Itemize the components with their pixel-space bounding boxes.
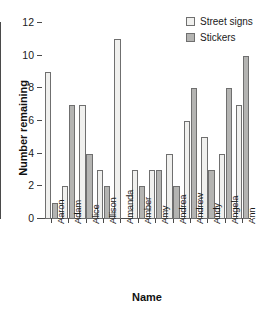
legend-swatch-icon xyxy=(186,33,195,42)
x-axis-tick xyxy=(173,219,174,223)
y-axis-tick-label: 2 xyxy=(8,180,34,191)
x-axis-tick xyxy=(68,219,69,223)
x-axis-tick-label: Aaron xyxy=(55,200,66,224)
x-axis-tick xyxy=(225,219,226,223)
x-axis-tick xyxy=(242,219,243,223)
x-axis-tick-label: Amber xyxy=(142,197,153,224)
x-axis-tick xyxy=(103,219,104,223)
x-axis-tick-label: Andy xyxy=(211,203,222,224)
legend-item: Stickers xyxy=(186,30,253,44)
x-axis-tick xyxy=(155,219,156,223)
chart-legend: Street signsStickers xyxy=(186,14,253,46)
x-axis-title: Name xyxy=(42,291,252,303)
x-axis-tick xyxy=(51,219,52,223)
y-axis-tick-label: 6 xyxy=(8,115,34,126)
y-axis-tick-label: 8 xyxy=(8,82,34,93)
x-axis-tick-label: Andrea xyxy=(177,195,188,224)
x-axis-tick xyxy=(190,219,191,223)
bars-layer xyxy=(42,22,251,219)
x-axis-tick-label: Amanda xyxy=(124,190,135,224)
x-axis-tick xyxy=(207,219,208,223)
bar xyxy=(45,72,51,219)
x-axis-tick xyxy=(86,219,87,223)
legend-item-label: Street signs xyxy=(200,16,253,27)
bar xyxy=(114,39,120,219)
legend-item: Street signs xyxy=(186,14,253,28)
y-axis-tick-label: 10 xyxy=(8,50,34,61)
y-axis-tick-label: 0 xyxy=(8,213,34,224)
legend-item-label: Stickers xyxy=(200,32,236,43)
x-axis-tick-label: Amy xyxy=(159,206,170,224)
bar xyxy=(243,56,249,219)
x-axis-tick-label: Alice xyxy=(90,204,101,224)
x-axis-tick-label: Ann xyxy=(246,208,257,224)
x-axis-tick-label: Adam xyxy=(72,200,83,224)
x-axis-tick-label: Allison xyxy=(107,197,118,224)
x-axis-tick-label: Angela xyxy=(229,196,240,224)
x-axis-tick xyxy=(120,219,121,223)
x-axis-tick xyxy=(138,219,139,223)
bar-chart: Number remaining 024681012 AaronAdamAlic… xyxy=(0,0,267,310)
legend-swatch-icon xyxy=(186,17,195,26)
y-axis-tick-label: 12 xyxy=(8,17,34,28)
y-axis-line xyxy=(0,22,1,219)
x-axis-tick-label: Andrew xyxy=(194,193,205,224)
y-axis-tick-label: 4 xyxy=(8,148,34,159)
